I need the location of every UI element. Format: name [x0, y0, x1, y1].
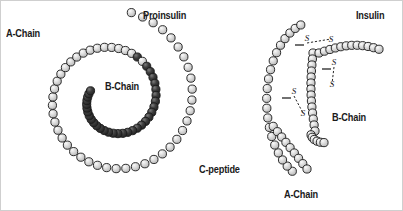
label-insulin: Insulin: [356, 10, 384, 21]
amino-acid-bead-light: [184, 63, 192, 71]
amino-acid-bead-light: [271, 141, 279, 149]
sulfur-atom-label: S: [292, 86, 297, 96]
amino-acid-bead-light: [49, 93, 57, 101]
amino-acid-bead-light: [51, 118, 59, 126]
amino-acid-bead-light: [303, 165, 311, 173]
amino-acid-bead-light: [178, 126, 186, 134]
disulfide-dashed-link: [307, 39, 331, 43]
amino-acid-bead-light: [186, 107, 194, 115]
amino-acid-bead-light: [183, 117, 191, 125]
amino-acid-bead-light: [173, 135, 181, 143]
sulfur-atom-label: S: [305, 33, 310, 43]
label-a-chain-right: A-Chain: [284, 189, 318, 200]
amino-acid-bead-light: [112, 165, 120, 173]
amino-acid-bead-light: [93, 161, 101, 169]
amino-acid-bead-light: [180, 53, 188, 61]
insulin-diagram-figure: SSSSSS Proinsulin A-Chain B-Chain C-pept…: [0, 0, 403, 211]
amino-acid-bead-light: [58, 134, 66, 142]
amino-acid-bead-light: [264, 75, 272, 83]
amino-acid-bead-light: [320, 139, 328, 147]
amino-acid-bead-light: [158, 150, 166, 158]
amino-acid-bead-light: [85, 158, 93, 166]
amino-acid-bead-light: [131, 163, 139, 171]
sulfur-atom-label: S: [330, 79, 335, 89]
amino-acid-bead-light: [263, 104, 271, 112]
amino-acid-bead-light: [54, 126, 62, 134]
amino-acid-bead-light: [103, 164, 111, 172]
amino-acid-bead-light: [122, 164, 130, 172]
amino-acid-bead-light: [187, 74, 195, 82]
amino-acid-bead-light: [188, 85, 196, 93]
label-b-chain-right: B-Chain: [332, 112, 366, 123]
sulfur-atom-label: S: [332, 57, 337, 67]
label-a-chain-left: A-Chain: [6, 28, 40, 39]
amino-acid-bead-light: [127, 9, 135, 17]
amino-acid-bead-light: [272, 49, 280, 57]
amino-acid-bead-light: [159, 26, 167, 34]
amino-acid-bead-light: [263, 94, 271, 102]
amino-acid-bead-light: [49, 110, 57, 118]
amino-acid-bead-light: [297, 21, 305, 29]
sulfur-atom-label: S: [329, 34, 334, 44]
amino-acid-bead-light: [174, 43, 182, 51]
amino-acid-bead-light: [264, 114, 272, 122]
amino-acid-bead-light: [77, 153, 85, 161]
amino-acid-bead-light: [188, 96, 196, 104]
amino-acid-bead-light: [266, 66, 274, 74]
insulin-chains: [263, 21, 384, 175]
amino-acid-bead-light: [141, 160, 149, 168]
label-proinsulin: Proinsulin: [143, 10, 186, 21]
amino-acid-bead-light: [50, 85, 58, 93]
sulfur-atom-label: S: [301, 108, 306, 118]
label-c-peptide: C-peptide: [199, 164, 240, 175]
amino-acid-bead-light: [70, 148, 78, 156]
amino-acid-bead-light: [48, 101, 56, 109]
amino-acid-bead-light: [263, 84, 271, 92]
amino-acid-bead-dark: [86, 87, 94, 95]
amino-acid-bead-light: [63, 141, 71, 149]
amino-acid-bead-light: [375, 45, 383, 53]
amino-acid-bead-light: [150, 155, 158, 163]
amino-acid-bead-light: [269, 57, 277, 65]
amino-acid-bead-light: [274, 149, 282, 157]
amino-acid-bead-light: [166, 143, 174, 151]
label-b-chain-left: B-Chain: [105, 81, 139, 92]
diagram-canvas: SSSSSS: [1, 1, 403, 211]
amino-acid-bead-light: [167, 34, 175, 42]
